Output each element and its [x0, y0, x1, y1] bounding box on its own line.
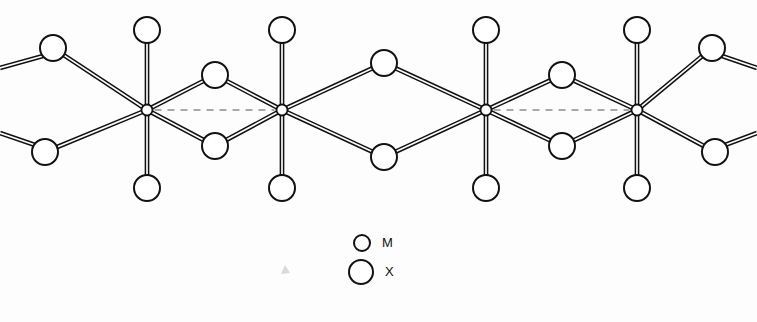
ligand-atom-terminal	[699, 35, 725, 61]
legend-swatch-M	[354, 235, 370, 251]
metal-atom-M4	[632, 105, 643, 116]
ligand-atom-axial	[473, 17, 499, 43]
bond-M4-X-bridge-top-34	[573, 82, 632, 110]
ligand-atom-axial	[624, 17, 650, 43]
ligand-atom-axial	[269, 17, 295, 43]
bond-M2-X-bridge-top-23	[286, 67, 372, 107]
stub-top-right	[723, 54, 757, 66]
metal-atom-M3	[481, 105, 492, 116]
bond-M4-X-term-top-right	[640, 55, 702, 106]
bond-M3-X-bridge-bot-34	[491, 111, 551, 140]
ligand-atom-axial	[134, 175, 160, 201]
metal-atom-M2	[277, 105, 288, 116]
bond-M1-X-bridge-top-12	[151, 79, 203, 106]
bond-M4-X-term-bot-right	[641, 114, 704, 148]
bond-M3-X-bridge-top-34	[491, 82, 551, 110]
bond-M1-X-term-top-left	[63, 56, 142, 108]
bond-M4-X-term-bot-right	[642, 111, 705, 145]
bond-M4-X-term-top-right	[642, 57, 704, 108]
stub-bot-left	[0, 135, 34, 147]
ligand-atom-bridging	[371, 144, 397, 170]
scan-speck	[281, 265, 290, 274]
bond-M2-X-bridge-bot-23	[287, 111, 373, 151]
scan-artifact-layer	[281, 265, 290, 274]
legend-swatch-X	[349, 260, 373, 284]
bond-M4-X-bridge-top-34	[574, 79, 633, 107]
ligand-atom-bridging	[371, 50, 397, 76]
ligand-atom-axial	[134, 17, 160, 43]
bond-M3-X-bridge-top-23	[395, 70, 481, 110]
bond-M2-X-bridge-top-12	[227, 79, 278, 106]
bond-M4-X-bridge-bot-34	[574, 114, 633, 142]
bond-M3-X-bridge-top-34	[490, 79, 550, 107]
legend-label-M: M	[382, 235, 393, 250]
bond-M3-X-bridge-top-23	[396, 67, 482, 107]
bond-M3-X-bridge-bot-23	[395, 111, 481, 151]
bond-M1-X-bridge-bot-12	[151, 114, 204, 142]
bond-M2-X-bridge-bot-23	[286, 114, 372, 154]
ligand-atom-bridging	[549, 62, 575, 88]
bond-M1-X-term-bot-left	[56, 110, 142, 145]
ligand-atom-axial	[624, 175, 650, 201]
stub-bot-left	[1, 131, 36, 143]
bond-M1-X-bridge-bot-12	[152, 111, 205, 139]
ligand-atom-bridging	[202, 62, 228, 88]
ligand-atom-layer	[32, 17, 728, 201]
structure-figure: MX	[0, 0, 757, 322]
bond-M1-X-term-bot-left	[57, 113, 143, 148]
ligand-atom-bridging	[202, 133, 228, 159]
stub-bot-right	[726, 134, 757, 146]
bond-M2-X-bridge-top-12	[225, 82, 276, 109]
structure-diagram: MX	[0, 0, 757, 322]
ligand-atom-bridging	[549, 133, 575, 159]
bond-M1-X-term-top-left	[64, 54, 143, 106]
stub-top-right	[721, 58, 756, 70]
ligand-atom-terminal	[40, 35, 66, 61]
bond-M3-X-bridge-bot-34	[490, 114, 550, 143]
metal-atom-layer	[142, 105, 643, 116]
metal-atom-M1	[142, 105, 153, 116]
stub-top-left	[0, 54, 43, 66]
legend: MX	[349, 235, 394, 284]
bond-M3-X-bridge-bot-23	[396, 114, 482, 154]
ligand-atom-axial	[269, 175, 295, 201]
bond-M1-X-bridge-top-12	[152, 82, 204, 109]
bond-M4-X-bridge-bot-34	[573, 111, 632, 139]
ligand-atom-terminal	[702, 139, 728, 165]
bond-M2-X-bridge-bot-12	[227, 114, 279, 142]
stub-top-left	[0, 58, 43, 70]
ligand-atom-axial	[473, 175, 499, 201]
ligand-atom-terminal	[32, 139, 58, 165]
bond-M2-X-bridge-top-23	[287, 70, 373, 110]
bond-M2-X-bridge-bot-12	[225, 111, 277, 139]
legend-label-X: X	[385, 264, 394, 279]
